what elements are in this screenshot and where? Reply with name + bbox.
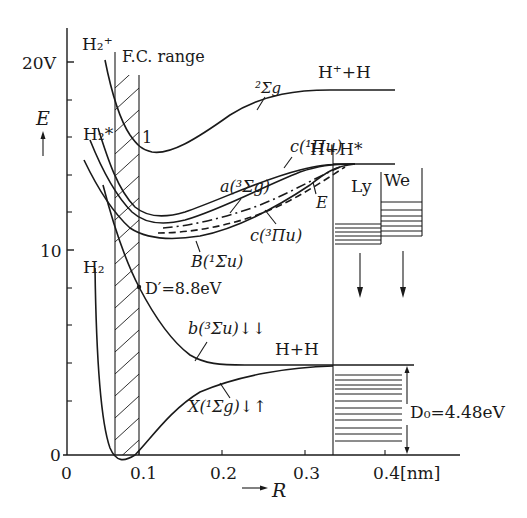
d0-arrow bbox=[405, 366, 410, 454]
x-state-pointer bbox=[220, 383, 230, 398]
x-unit-label: [nm] bbox=[400, 463, 440, 483]
lyman-emission-arrow-icon bbox=[357, 253, 363, 298]
x-tick-0.3: 0.3 bbox=[293, 463, 320, 483]
d-prime-label: D′=8.8eV bbox=[145, 279, 222, 298]
sigma-g-2-pointer bbox=[257, 97, 265, 110]
d0-label: D₀=4.48eV bbox=[410, 402, 506, 422]
sigma-g-2-label: ²Σg bbox=[255, 79, 281, 97]
we-label: We bbox=[384, 170, 410, 190]
x-axis-label: R bbox=[271, 479, 286, 501]
d-prime-point bbox=[137, 285, 141, 289]
y-axis-arrow-icon bbox=[41, 131, 46, 156]
x-tick-0.1: 0.1 bbox=[130, 463, 157, 483]
x-tick-0.2: 0.2 bbox=[210, 463, 237, 483]
potential-energy-diagram: 20V 10 0 E 0 0.1 0.2 0.3 0.4 [nm] R F.C.… bbox=[0, 0, 527, 518]
h-plus-h-label: H+H bbox=[275, 339, 319, 359]
e-state-pointer bbox=[313, 182, 316, 194]
b-state-label: b(³Σu)↓↓ bbox=[188, 319, 266, 338]
c-pi-u-1-pointer bbox=[284, 157, 292, 168]
a-state-label: a(³Σg) bbox=[220, 177, 270, 196]
e-state-label: E bbox=[315, 193, 328, 212]
y-axis bbox=[67, 28, 74, 455]
h2-plus-label: H₂⁺ bbox=[82, 34, 113, 54]
fc-range-label: F.C. range bbox=[122, 47, 205, 66]
y-axis-label: E bbox=[35, 107, 50, 129]
ly-label: Ly bbox=[351, 176, 372, 196]
b-sigma-u-1-label: B(¹Σu) bbox=[190, 252, 243, 271]
y-tick-0: 0 bbox=[50, 445, 61, 465]
x-tick-0: 0 bbox=[61, 463, 72, 483]
b-state-pointer bbox=[195, 342, 207, 361]
marker-1: 1 bbox=[142, 128, 152, 147]
b-sigma-u-1-pointer bbox=[196, 241, 200, 252]
h2-star-label: H₂* bbox=[83, 124, 114, 144]
x-axis-arrow-icon bbox=[242, 486, 268, 491]
c-pi-u-3-label: c(³Πu) bbox=[250, 226, 302, 245]
ground-vibrational-levels bbox=[335, 375, 402, 441]
x-tick-0.4: 0.4 bbox=[373, 463, 400, 483]
y-tick-20: 20V bbox=[22, 53, 57, 73]
c-pi-u-3-pointer bbox=[265, 210, 276, 224]
y-tick-10: 10 bbox=[40, 241, 62, 261]
x-state-label: X(¹Σg)↓↑ bbox=[186, 397, 267, 416]
h2-label: H₂ bbox=[83, 257, 105, 277]
h-plus-hstar-label: H+H* bbox=[310, 139, 363, 159]
h-plus-h-top-label: H⁺+H bbox=[318, 62, 371, 82]
werner-emission-arrow-icon bbox=[400, 251, 406, 298]
